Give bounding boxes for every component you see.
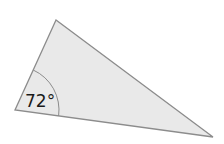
triangle [15,20,213,137]
triangle-diagram: 72° [0,0,224,144]
angle-label: 72° [25,91,55,111]
